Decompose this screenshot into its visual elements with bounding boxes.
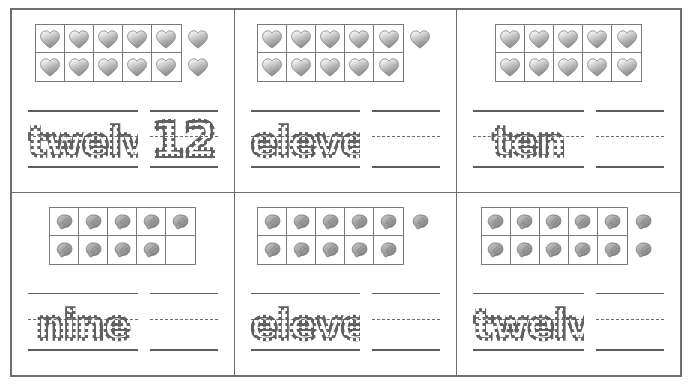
shell-icon	[112, 240, 133, 259]
heart-icon	[616, 57, 638, 77]
ten-frame-slot	[316, 25, 345, 53]
extra-token-slot	[631, 208, 657, 236]
extra-token-slot	[407, 53, 433, 81]
number-word-lane[interactable]: nine	[28, 293, 138, 351]
ten-frame-slot	[612, 25, 641, 53]
heart-icon	[586, 57, 608, 77]
extra-tokens	[407, 25, 433, 81]
heart-icon	[616, 29, 638, 49]
extra-tokens	[631, 208, 657, 264]
number-word-lane[interactable]: ten	[473, 110, 584, 168]
worksheet-cell: ten	[457, 10, 680, 193]
ten-frame-area	[235, 207, 457, 269]
heart-icon	[68, 29, 90, 49]
numeral-lane[interactable]	[372, 293, 440, 351]
ten-frame-slot	[36, 25, 65, 53]
extra-tokens	[185, 25, 211, 81]
ten-frame-slot	[569, 236, 598, 264]
shell-icon	[170, 212, 191, 231]
shell-icon	[320, 240, 341, 259]
shell-icon	[378, 212, 399, 231]
ten-frame-area	[12, 24, 234, 86]
worksheet-cell: eleven	[235, 193, 458, 376]
guide-line-top	[28, 293, 138, 295]
shell-icon	[291, 212, 312, 231]
shell-icon	[83, 240, 104, 259]
numeral-lane[interactable]	[596, 293, 664, 351]
ten-frame-slot	[540, 236, 569, 264]
numeral-lane[interactable]	[372, 110, 440, 168]
shell-icon	[602, 212, 623, 231]
heart-icon	[409, 29, 431, 49]
ten-frame-slot	[583, 25, 612, 53]
heart-icon	[528, 57, 550, 77]
extra-token-slot	[407, 236, 433, 264]
heart-icon	[499, 57, 521, 77]
heart-icon	[126, 29, 148, 49]
numeral-lane[interactable]	[596, 110, 664, 168]
shell-icon	[349, 212, 370, 231]
writing-area: eleven	[235, 96, 457, 186]
worksheet-cell: twelve12	[12, 10, 235, 193]
ten-frame-slot	[598, 236, 627, 264]
shell-icon	[485, 212, 506, 231]
extra-token-slot	[185, 25, 211, 53]
guide-line-baseline	[150, 349, 218, 351]
heart-icon	[378, 29, 400, 49]
numeral-lane[interactable]: 12	[150, 110, 218, 168]
heart-icon	[97, 57, 119, 77]
ten-frame-area	[12, 207, 234, 269]
ten-frame-wrapper	[49, 207, 196, 265]
heart-icon	[187, 29, 209, 49]
extra-token-slot	[631, 236, 657, 264]
ten-frame-slot	[287, 208, 316, 236]
ten-frame-slot	[287, 53, 316, 81]
heart-icon	[348, 57, 370, 77]
ten-frame-slot	[65, 25, 94, 53]
ten-frame-slot	[345, 236, 374, 264]
number-word-lane[interactable]: eleven	[251, 293, 361, 351]
guide-line-baseline	[372, 166, 440, 168]
shell-icon	[602, 240, 623, 259]
ten-frame-slot	[152, 25, 181, 53]
heart-icon	[68, 57, 90, 77]
guide-line-middle	[372, 319, 440, 320]
ten-frame-slot	[554, 53, 583, 81]
ten-frame-slot	[36, 53, 65, 81]
guide-line-top	[372, 293, 440, 295]
extra-token-slot	[407, 208, 433, 236]
worksheet-cell: eleven	[235, 10, 458, 193]
heart-icon	[290, 57, 312, 77]
ten-frame-slot	[482, 208, 511, 236]
numeral-lane[interactable]	[150, 293, 218, 351]
shell-icon	[54, 212, 75, 231]
number-word-lane[interactable]: twelve	[28, 110, 138, 168]
ten-frame-wrapper	[495, 24, 642, 82]
ten-frame-slot	[166, 208, 195, 236]
ten-frame-slot	[166, 236, 195, 264]
ten-frame-slot	[65, 53, 94, 81]
ten-frame-slot	[598, 208, 627, 236]
ten-frame-slot	[345, 25, 374, 53]
ten-frame-slot	[374, 25, 403, 53]
shell-icon	[514, 240, 535, 259]
ten-frame-slot	[316, 53, 345, 81]
guide-line-baseline	[596, 166, 664, 168]
ten-frame-area	[235, 24, 457, 86]
writing-area: ten	[457, 96, 680, 186]
ten-frame-area	[457, 207, 680, 269]
ten-frame	[35, 24, 182, 82]
ten-frame-slot	[496, 25, 525, 53]
number-word-trace: ten	[473, 116, 584, 168]
ten-frame-slot	[525, 53, 554, 81]
heart-icon	[39, 57, 61, 77]
heart-icon	[155, 57, 177, 77]
guide-line-top	[473, 110, 584, 112]
number-word-lane[interactable]: eleven	[251, 110, 361, 168]
ten-frame-slot	[612, 53, 641, 81]
heart-icon	[97, 29, 119, 49]
guide-line-top	[596, 110, 664, 112]
number-word-lane[interactable]: twelve	[473, 293, 584, 351]
ten-frame-slot	[50, 208, 79, 236]
guide-line-top	[150, 293, 218, 295]
